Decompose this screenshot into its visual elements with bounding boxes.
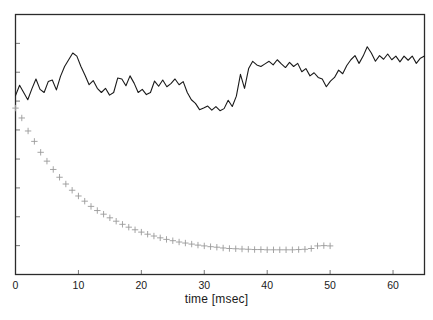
x-tick-label: 50 bbox=[324, 279, 336, 291]
x-tick-label: 60 bbox=[387, 279, 399, 291]
x-tick-label: 40 bbox=[261, 279, 273, 291]
x-tick-label: 30 bbox=[198, 279, 210, 291]
x-tick-label: 20 bbox=[136, 279, 148, 291]
x-tick-label: 0 bbox=[13, 279, 19, 291]
x-axis-label: time [msec] bbox=[0, 292, 433, 306]
chart-figure: 0102030405060 time [msec] bbox=[0, 0, 433, 320]
chart-canvas: 0102030405060 bbox=[0, 0, 433, 320]
x-tick-label: 10 bbox=[73, 279, 85, 291]
